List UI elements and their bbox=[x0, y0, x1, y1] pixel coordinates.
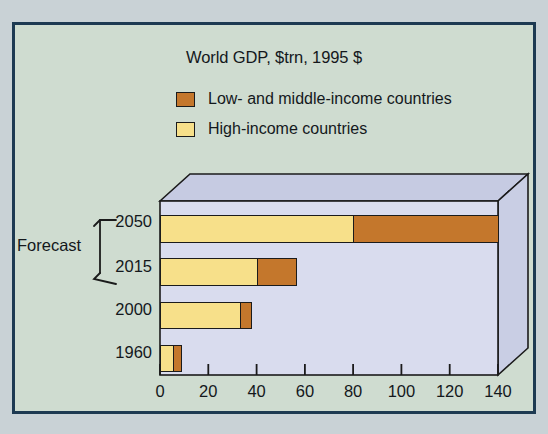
bar-2050-low-middle-income bbox=[353, 215, 499, 243]
x-tick-label-140: 140 bbox=[484, 382, 512, 401]
y-axis-label-2050: 2050 bbox=[16, 212, 152, 231]
bar-1960-high-income bbox=[160, 345, 174, 372]
forecast-annotation-label: Forecast bbox=[17, 236, 81, 255]
bar-2000-high-income bbox=[160, 302, 241, 329]
plot-area: 2050 2015 2000 1960 Forecast 0 20 40 60 … bbox=[16, 26, 532, 410]
chart-screenshot: World GDP, $trn, 1995 $ Low- and middle-… bbox=[0, 0, 548, 434]
x-tick-label-100: 100 bbox=[388, 382, 416, 401]
plot-box-top-face bbox=[160, 174, 528, 201]
x-tick-label-80: 80 bbox=[344, 382, 362, 401]
x-tick-label-20: 20 bbox=[199, 382, 217, 401]
bar-2015-high-income bbox=[160, 258, 258, 286]
x-tick-label-120: 120 bbox=[436, 382, 464, 401]
x-tick-label-60: 60 bbox=[296, 382, 314, 401]
y-axis-label-2000: 2000 bbox=[16, 300, 152, 319]
bar-2000-low-middle-income bbox=[240, 302, 252, 329]
x-tick-label-40: 40 bbox=[247, 382, 265, 401]
bar-2050-high-income bbox=[160, 215, 354, 243]
y-axis-label-1960: 1960 bbox=[16, 343, 152, 362]
x-tick-label-0: 0 bbox=[155, 382, 164, 401]
bar-1960-low-middle-income bbox=[173, 345, 182, 372]
y-axis-label-2015: 2015 bbox=[16, 257, 152, 276]
bar-2015-low-middle-income bbox=[257, 258, 297, 286]
chart-panel: World GDP, $trn, 1995 $ Low- and middle-… bbox=[16, 26, 532, 410]
plot-box-right-face bbox=[498, 174, 528, 375]
